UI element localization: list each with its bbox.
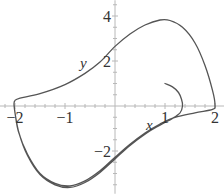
x-tick-label: 2 xyxy=(211,109,219,126)
y-tick-label: −2 xyxy=(94,143,111,160)
y-axis-label: y xyxy=(78,55,87,71)
tick-labels: −2−11242−2 xyxy=(6,8,219,160)
x-axis-label: x xyxy=(145,117,153,133)
phase-plot: −2−11242−2 x y xyxy=(0,0,224,195)
x-tick-label: −1 xyxy=(56,109,73,126)
x-tick-label: 1 xyxy=(161,109,169,126)
y-tick-label: 2 xyxy=(103,53,111,70)
y-tick-label: 4 xyxy=(103,8,111,25)
x-tick-label: −2 xyxy=(6,109,23,126)
